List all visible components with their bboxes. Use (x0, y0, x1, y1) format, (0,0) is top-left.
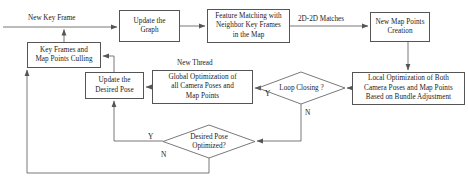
edge-loopclosing-no-to-desiredposeoptimized (257, 104, 301, 141)
node-update-graph-label: Update the Graph (134, 17, 166, 36)
node-loop-closing-label[interactable]: Loop Closing ? (258, 84, 345, 93)
line-1: Feature Matching with (215, 12, 282, 20)
line-1: Desired Pose (190, 133, 228, 141)
line-2: Graph (140, 26, 158, 34)
loop-closing-text: Loop Closing ? (279, 84, 323, 92)
line-3: Based on Bundle Adjustment (366, 93, 451, 101)
line-3: in the Map (233, 31, 265, 39)
node-local-optimization-label: Local Optimization of Both Camera Poses … (364, 74, 453, 103)
edge-label-loop-closing-no: N (305, 108, 310, 117)
node-feature-matching-label: Feature Matching with Neighbor Key Frame… (215, 12, 282, 41)
node-global-optimization-label: Global Optimization of all Camera Poses … (168, 73, 236, 102)
line-3: Map Points (186, 92, 219, 100)
line-1: Local Optimization of Both (368, 74, 449, 82)
line-2: Creation (387, 27, 412, 35)
line-2: Desired Pose (95, 86, 133, 94)
node-update-desired-pose-label: Update the Desired Pose (95, 76, 133, 95)
node-key-frames-map-points-culling[interactable]: Key Frames and Map Points Culling (27, 42, 101, 68)
node-desired-pose-optimized-label[interactable]: Desired Pose Optimized? (163, 133, 255, 152)
edge-label-loop-closing-yes: Y (265, 89, 270, 98)
line-2: Camera Poses and Map Points (364, 84, 453, 92)
edge-updatedesiredpose-to-culling (103, 56, 114, 72)
node-new-map-points-creation-label: New Map Points Creation (375, 18, 424, 37)
node-update-desired-pose[interactable]: Update the Desired Pose (85, 72, 144, 99)
edge-label-desired-pose-no: N (161, 150, 166, 159)
node-update-graph[interactable]: Update the Graph (119, 10, 180, 42)
node-new-map-points-creation[interactable]: New Map Points Creation (370, 12, 430, 42)
line-1: Update the (99, 76, 131, 84)
line-2: Map Points Culling (35, 55, 92, 63)
edge-label-new-key-frame: New Key Frame (28, 14, 76, 22)
edge-label-2d-2d-matches: 2D-2D Matches (298, 15, 344, 23)
line-1: Key Frames and (40, 46, 88, 54)
flowchart-canvas: Update the Graph Feature Matching with N… (0, 0, 468, 189)
edge-desiredposeoptimized-yes-to-updatedesiredpose (114, 101, 163, 141)
line-1: New Map Points (375, 18, 424, 26)
node-feature-matching[interactable]: Feature Matching with Neighbor Key Frame… (207, 9, 290, 43)
edge-label-new-thread: New Thread (177, 59, 213, 67)
node-global-optimization[interactable]: Global Optimization of all Camera Poses … (152, 70, 253, 104)
line-1: Update the (134, 17, 166, 25)
line-2: all Camera Poses and (171, 82, 234, 90)
line-2: Optimized? (192, 142, 226, 150)
line-2: Neighbor Key Frames (216, 21, 281, 29)
node-culling-label: Key Frames and Map Points Culling (35, 46, 92, 65)
edge-label-desired-pose-yes: Y (148, 132, 153, 141)
node-local-optimization[interactable]: Local Optimization of Both Camera Poses … (352, 72, 465, 105)
line-1: Global Optimization of (168, 73, 236, 81)
